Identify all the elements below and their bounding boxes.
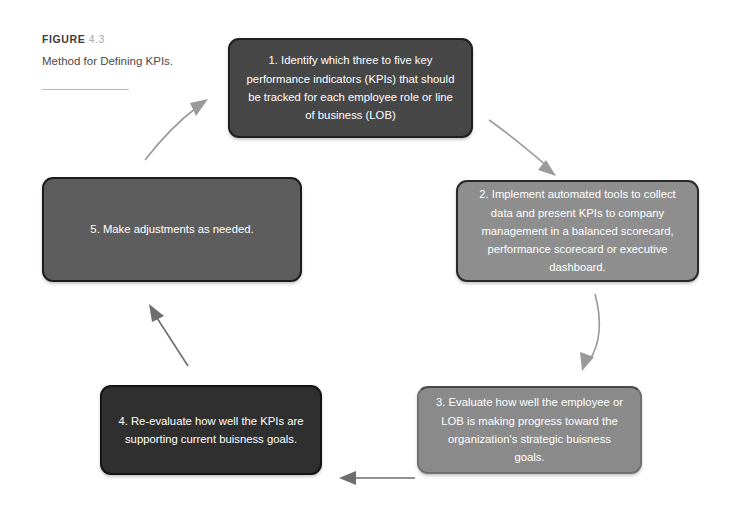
arrow-1-to-2-head [538, 160, 556, 176]
process-step-3-text: 3. Evaluate how well the employee or LOB… [433, 393, 626, 466]
process-step-1[interactable]: 1. Identify which three to five key perf… [228, 38, 473, 138]
arrow-5-to-1 [145, 99, 208, 160]
arrow-3-to-4-head [339, 471, 356, 485]
arrow-5-to-1-head [190, 99, 208, 116]
process-step-4-text: 4. Re-evaluate how well the KPIs are sup… [116, 412, 306, 449]
process-step-5-text: 5. Make adjustments as needed. [58, 220, 286, 238]
process-step-3[interactable]: 3. Evaluate how well the employee or LOB… [417, 386, 642, 474]
arrow-1-to-2-line [489, 120, 548, 167]
arrow-1-to-2 [489, 120, 556, 176]
arrow-2-to-3-line [589, 294, 599, 361]
figure-number: 4.3 [89, 33, 105, 45]
process-step-4[interactable]: 4. Re-evaluate how well the KPIs are sup… [100, 385, 322, 475]
process-step-2[interactable]: 2. Implement automated tools to collect … [456, 180, 699, 282]
arrow-5-to-1-line [145, 108, 196, 160]
figure-caption: FIGURE 4.3 Method for Defining KPIs. [42, 33, 217, 70]
figure-label: FIGURE 4.3 [42, 33, 217, 45]
figure-title: Method for Defining KPIs. [42, 54, 217, 70]
caption-divider [42, 89, 129, 90]
process-step-5[interactable]: 5. Make adjustments as needed. [42, 177, 302, 282]
arrow-4-to-5-head [149, 304, 164, 322]
process-step-2-text: 2. Implement automated tools to collect … [472, 185, 683, 276]
process-step-1-text: 1. Identify which three to five key perf… [244, 51, 457, 124]
arrow-4-to-5-line [157, 318, 188, 366]
figure-container: FIGURE 4.3 Method for Defining KPIs. [0, 0, 734, 524]
arrow-3-to-4 [339, 471, 415, 485]
figure-label-word: FIGURE [42, 33, 85, 45]
arrow-2-to-3 [580, 294, 599, 371]
arrow-4-to-5 [149, 304, 188, 366]
arrow-2-to-3-head [580, 352, 594, 371]
